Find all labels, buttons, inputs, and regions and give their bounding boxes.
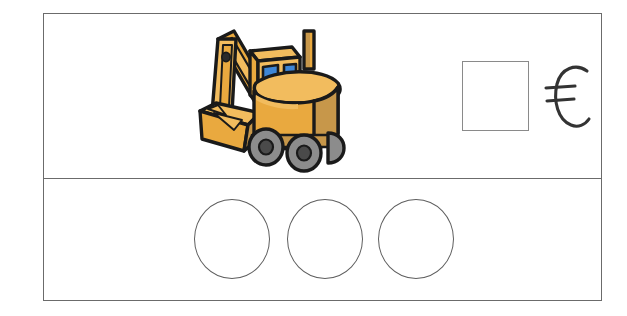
item-and-price-row [44, 14, 601, 179]
price-input-box[interactable] [462, 61, 529, 131]
excavator-icon [156, 17, 351, 177]
coin-slot-group [194, 199, 456, 281]
coin-slot-3[interactable] [378, 199, 454, 279]
coin-slot-2[interactable] [287, 199, 363, 279]
coin-slot-1[interactable] [194, 199, 270, 279]
worksheet-frame [43, 13, 602, 301]
euro-sign-icon [542, 56, 594, 136]
coin-slots-row [44, 179, 601, 300]
